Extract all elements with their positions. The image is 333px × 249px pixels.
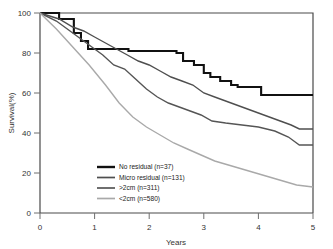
axis-top-right: [40, 13, 313, 213]
x-tick-label-2: 2: [147, 223, 152, 232]
y-tick-label-20: 20: [22, 169, 31, 178]
survival-curve-figure: 0 20 40 60 80 100 0 1 2 3 4 5 Years Surv…: [0, 0, 333, 249]
survival-curves: [40, 13, 313, 187]
x-tick-label-1: 1: [92, 223, 97, 232]
y-tick-label-40: 40: [22, 129, 31, 138]
kaplan-meier-chart: 0 20 40 60 80 100 0 1 2 3 4 5 Years Surv…: [0, 0, 333, 249]
y-tick-label-100: 100: [18, 9, 32, 18]
survival-curve-1: [40, 13, 313, 95]
y-axis-title: Survival(%): [7, 92, 16, 133]
y-axis-ticks: [34, 13, 40, 213]
legend-label-3: >2cm (n=311): [119, 184, 160, 192]
x-axis-ticks: [40, 213, 313, 219]
x-axis-title: Years: [166, 238, 186, 247]
x-tick-label-3: 3: [202, 223, 207, 232]
x-tick-label-4: 4: [256, 223, 261, 232]
legend-label-1: No residual (n=37): [119, 163, 173, 171]
chart-legend: No residual (n=37)Micro residual (n=131)…: [97, 163, 185, 203]
y-tick-label-60: 60: [22, 89, 31, 98]
legend-label-4: <2cm (n=580): [119, 195, 160, 203]
y-tick-label-0: 0: [27, 209, 32, 218]
y-axis-labels: 0 20 40 60 80 100: [18, 9, 32, 218]
legend-label-2: Micro residual (n=131): [119, 174, 185, 182]
plot-frame: [40, 13, 313, 213]
axis-left-bottom: [40, 13, 313, 213]
y-tick-label-80: 80: [22, 49, 31, 58]
survival-curve-2: [40, 13, 313, 129]
x-tick-label-0: 0: [38, 223, 43, 232]
x-tick-label-5: 5: [311, 223, 316, 232]
x-axis-labels: 0 1 2 3 4 5: [38, 223, 316, 232]
